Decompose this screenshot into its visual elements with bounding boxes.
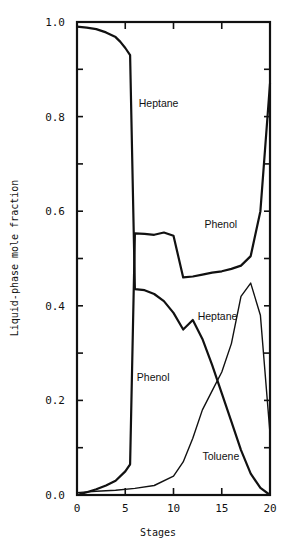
- x-tick-label: 5: [122, 502, 129, 515]
- y-axis-ticks: 0.00.20.40.60.81.0: [45, 16, 270, 502]
- x-axis-title: Stages: [140, 527, 176, 538]
- curve-labels: HeptanePhenolHeptanePhenolToluene: [137, 97, 240, 461]
- curve-label-heptane: Heptane: [198, 310, 238, 322]
- y-tick-label: 0.4: [45, 300, 65, 313]
- y-tick-label: 0.0: [45, 489, 65, 502]
- curve-phenol: [77, 84, 270, 496]
- x-tick-label: 0: [74, 502, 81, 515]
- x-axis-ticks: 05101520: [74, 22, 277, 515]
- curve-label-heptane: Heptane: [139, 97, 179, 109]
- y-tick-label: 0.8: [45, 111, 65, 124]
- x-tick-label: 15: [215, 502, 228, 515]
- plot-frame: [77, 22, 270, 495]
- curve-label-phenol: Phenol: [204, 218, 237, 230]
- y-tick-label: 1.0: [45, 16, 65, 29]
- y-tick-label: 0.6: [45, 205, 65, 218]
- curve-label-phenol: Phenol: [137, 371, 170, 383]
- plot-border: [77, 22, 270, 495]
- curve-label-toluene: Toluene: [202, 450, 239, 462]
- x-tick-label: 20: [263, 502, 276, 515]
- mole-fraction-chart: 0.00.20.40.60.81.0 05101520 HeptanePheno…: [0, 0, 296, 552]
- y-axis-title: Liquid-phase mole fraction: [9, 180, 20, 337]
- y-tick-label: 0.2: [45, 394, 65, 407]
- x-tick-label: 10: [167, 502, 180, 515]
